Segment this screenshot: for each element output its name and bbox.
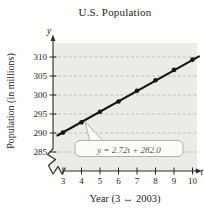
y-tick-label: 290	[34, 128, 48, 138]
population-chart: U.S. Population Population (in millions)…	[0, 0, 204, 221]
data-point	[172, 68, 177, 73]
chart-canvas: 310305300295290285 345678910 y t y = 2.7…	[0, 0, 204, 221]
data-point	[116, 99, 121, 104]
x-tick-labels: 345678910	[61, 176, 198, 186]
data-point	[79, 120, 84, 125]
x-tick-label: 7	[135, 176, 140, 186]
x-tick-label: 5	[98, 176, 103, 186]
data-point	[61, 130, 66, 135]
y-tick-label: 310	[34, 52, 48, 62]
x-tick-label: 3	[61, 176, 66, 186]
x-tick-label: 9	[172, 176, 177, 186]
data-point	[98, 109, 103, 114]
y-tick-labels: 310305300295290285	[34, 52, 48, 157]
y-axis-var-label: y	[46, 26, 52, 36]
x-tick-label: 6	[116, 176, 121, 186]
y-tick-label: 285	[34, 147, 48, 157]
y-tick-label: 300	[34, 90, 48, 100]
data-point	[190, 57, 195, 62]
x-tick-label: 8	[153, 176, 158, 186]
x-tick-label: 4	[79, 176, 84, 186]
x-tick-label: 10	[188, 176, 198, 186]
data-point	[135, 89, 140, 94]
data-point	[153, 78, 158, 83]
y-tick-label: 305	[34, 71, 48, 81]
trend-equation-label: y = 2.72t + 282.0	[96, 145, 161, 155]
y-axis-arrow-icon	[51, 35, 56, 42]
x-axis-var-label: t	[201, 167, 204, 177]
y-tick-label: 295	[34, 109, 48, 119]
